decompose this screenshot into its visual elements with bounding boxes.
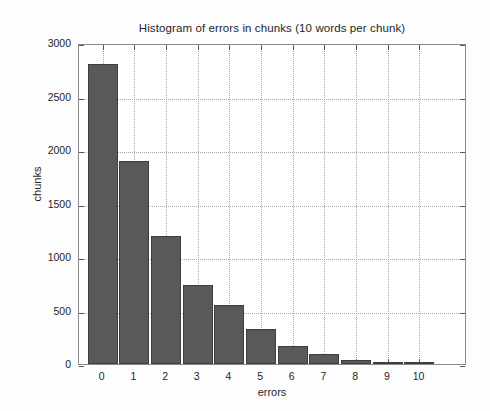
x-axis-tick bbox=[356, 45, 357, 50]
histogram-bar bbox=[183, 285, 213, 364]
y-axis-tick bbox=[79, 313, 84, 314]
grid-line-vertical bbox=[324, 45, 325, 364]
grid-line-vertical bbox=[388, 45, 389, 364]
y-axis-tick bbox=[460, 45, 465, 46]
y-axis-tick bbox=[460, 366, 465, 367]
chart-title: Histogram of errors in chunks (10 words … bbox=[78, 22, 466, 34]
y-axis-tick-label: 0 bbox=[0, 358, 71, 370]
y-axis-tick bbox=[79, 45, 84, 46]
y-axis-tick-label: 1500 bbox=[0, 198, 71, 210]
histogram-bar bbox=[151, 236, 181, 364]
histogram-bar bbox=[88, 64, 118, 364]
histogram-bar bbox=[309, 354, 339, 364]
grid-line-horizontal bbox=[79, 152, 465, 153]
y-axis-tick bbox=[79, 152, 84, 153]
y-axis-tick-label: 1000 bbox=[0, 251, 71, 263]
x-axis-tick-label: 10 bbox=[398, 370, 438, 382]
histogram-bar bbox=[278, 346, 308, 364]
histogram-bar bbox=[214, 305, 244, 364]
y-axis-tick bbox=[460, 152, 465, 153]
histogram-bar bbox=[119, 161, 149, 364]
x-axis-tick bbox=[419, 45, 420, 50]
x-axis-tick bbox=[324, 45, 325, 50]
x-axis-tick bbox=[293, 45, 294, 50]
grid-line-vertical bbox=[419, 45, 420, 364]
y-axis-tick-label: 2500 bbox=[0, 91, 71, 103]
y-axis-tick bbox=[460, 259, 465, 260]
grid-line-vertical bbox=[356, 45, 357, 364]
plot-area bbox=[78, 44, 466, 365]
y-axis-tick bbox=[79, 366, 84, 367]
y-axis-tick-label: 500 bbox=[0, 305, 71, 317]
x-axis-tick bbox=[166, 45, 167, 50]
histogram-bar bbox=[373, 362, 403, 364]
x-axis-label: errors bbox=[78, 386, 466, 398]
y-axis-tick bbox=[460, 206, 465, 207]
x-axis-tick bbox=[103, 45, 104, 50]
grid-line-vertical bbox=[293, 45, 294, 364]
y-axis-tick-label: 2000 bbox=[0, 144, 71, 156]
y-axis-tick bbox=[79, 259, 84, 260]
histogram-bar bbox=[404, 362, 434, 364]
grid-line-vertical bbox=[261, 45, 262, 364]
x-axis-tick bbox=[388, 45, 389, 50]
histogram-bar bbox=[341, 360, 371, 364]
histogram-bar bbox=[246, 329, 276, 364]
grid-line-horizontal bbox=[79, 99, 465, 100]
y-axis-tick-label: 3000 bbox=[0, 37, 71, 49]
figure-canvas: Histogram of errors in chunks (10 words … bbox=[0, 0, 490, 411]
y-axis-tick bbox=[79, 99, 84, 100]
y-axis-tick bbox=[460, 99, 465, 100]
y-axis-tick bbox=[460, 313, 465, 314]
x-axis-tick bbox=[198, 45, 199, 50]
x-axis-tick bbox=[261, 45, 262, 50]
y-axis-tick bbox=[79, 206, 84, 207]
x-axis-tick bbox=[229, 45, 230, 50]
x-axis-tick bbox=[134, 45, 135, 50]
